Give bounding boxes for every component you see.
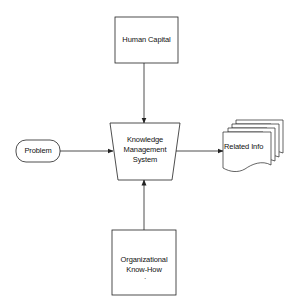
- kms-label-line1: Knowledge: [110, 135, 180, 144]
- problem-label: Problem: [16, 146, 60, 155]
- related-info-label: Related Info: [223, 142, 268, 151]
- org-knowhow-label-line2: Know-How: [112, 265, 176, 274]
- kms-label-line2: Management: [110, 145, 180, 154]
- human-capital-label: Human Capital: [115, 35, 178, 44]
- kms-label-line3: System: [110, 155, 180, 164]
- org-knowhow-dot: ·: [112, 274, 178, 283]
- org-knowhow-label-line1: Organizational: [112, 255, 176, 264]
